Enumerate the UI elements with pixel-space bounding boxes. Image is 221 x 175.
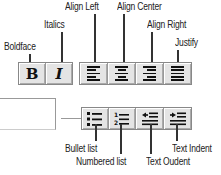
leader-bullet-list	[95, 124, 97, 141]
indent-icon	[170, 112, 186, 126]
label-numbered-list: Numbered list	[76, 156, 126, 167]
leader-align-left	[94, 14, 96, 68]
label-boldface: Boldface	[4, 41, 36, 52]
leader-text-indent	[176, 124, 178, 141]
align-left-icon	[87, 66, 100, 81]
label-italics: Italics	[44, 19, 65, 30]
bold-button[interactable]: B	[19, 63, 46, 84]
alignment-group	[79, 62, 192, 85]
leader-align-center	[123, 14, 125, 68]
justify-button[interactable]	[164, 63, 191, 84]
toolbar-separator	[61, 118, 81, 119]
label-justify: Justify	[175, 37, 198, 48]
align-right-icon	[143, 66, 156, 81]
svg-text:1: 1	[114, 112, 118, 118]
align-center-button[interactable]	[108, 63, 136, 84]
bold-icon: B	[26, 65, 39, 83]
leader-numbered-list	[120, 124, 122, 154]
label-text-indent: Text Indent	[172, 143, 212, 154]
svg-text:2: 2	[114, 119, 118, 126]
align-right-button[interactable]	[136, 63, 164, 84]
text-field-edge	[0, 98, 56, 130]
numbered-list-button[interactable]: 1 2	[109, 108, 136, 129]
font-style-group: B I	[18, 62, 73, 85]
italic-icon: I	[55, 65, 62, 83]
label-text-outdent: Text Oudent	[146, 156, 190, 167]
align-left-button[interactable]	[80, 63, 108, 84]
align-center-icon	[115, 66, 128, 81]
leader-text-outdent	[150, 124, 152, 154]
text-indent-button[interactable]	[164, 108, 191, 129]
label-align-center: Align Center	[117, 1, 162, 12]
numbered-list-icon: 1 2	[114, 112, 130, 126]
justify-icon	[171, 66, 184, 81]
italic-button[interactable]: I	[46, 63, 72, 84]
label-bullet-list: Bullet list	[65, 143, 97, 154]
label-align-left: Align Left	[65, 1, 99, 12]
label-align-right: Align Right	[147, 19, 186, 30]
